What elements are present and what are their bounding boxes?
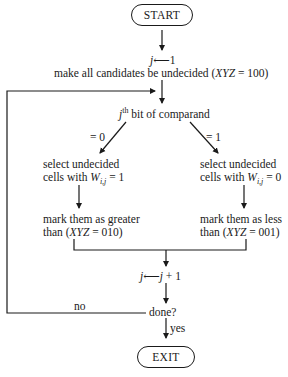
increment-step: j⟵j + 1 [140,270,181,283]
right-mark-step: mark them as less than (XYZ = 001) [200,213,282,239]
exit-terminal: EXIT [137,346,195,368]
right-select-step: select undecided cells with Wi,j = 0 [200,158,281,184]
assign-arrow: ⟵ [153,54,170,66]
left-select-step: select undecided cells with Wi,j = 1 [43,158,124,184]
xyz-code: XYZ [215,67,235,79]
loop-back-line [7,91,155,313]
exit-label: EXIT [152,351,179,363]
branch-zero-label: = 0 [90,131,105,144]
no-label: no [74,300,86,313]
branch-one-label: = 1 [206,131,221,144]
done-decision: done? [149,306,176,319]
decision-text: jth bit of comparand [119,108,210,121]
start-terminal: START [131,4,193,26]
start-label: START [144,9,180,21]
init-step-text: make all candidates be undecided (XYZ = … [54,67,268,80]
flowchart-canvas [0,0,288,377]
init-value: 1 [170,54,176,66]
init-assignment: j⟵1 [150,54,175,67]
merge-line [74,239,246,250]
yes-label: yes [170,322,185,335]
left-mark-step: mark them as greater than (XYZ = 010) [43,213,140,239]
